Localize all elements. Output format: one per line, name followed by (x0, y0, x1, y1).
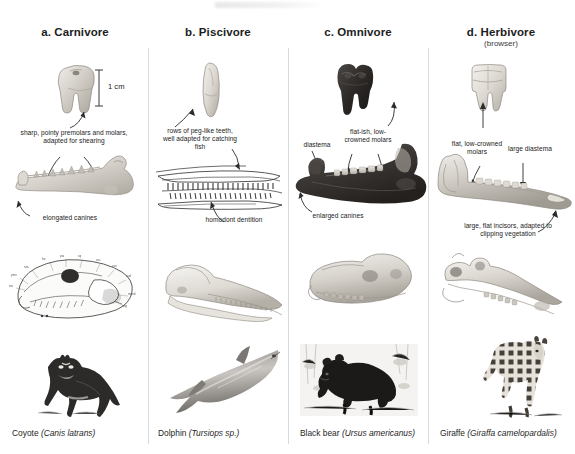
column-divider-1 (148, 48, 149, 444)
column-header-piscivore-label: b. Piscivore (185, 26, 251, 38)
svg-text:aud: aud (126, 274, 131, 278)
herbivore-tooth-arrow (474, 100, 492, 130)
incisor-annotation: large, flat incisors, adapted to clippin… (462, 222, 554, 238)
svg-text:occ: occ (96, 258, 101, 262)
caption-herbivore: Giraffe (Giraffa camelopardalis) (440, 428, 557, 438)
coyote-skull-illustration: nasfropar sqocccon audmandang pmxmx (8, 250, 140, 332)
piscivore-tooth-arrow (172, 105, 198, 129)
caption-carnivore: Coyote (Canis latrans) (12, 428, 95, 438)
column-divider-2 (288, 48, 289, 444)
scale-bar (94, 68, 106, 108)
black-bear-photo (300, 344, 418, 416)
giraffe-skull (434, 250, 564, 326)
svg-text:mx: mx (9, 284, 13, 288)
species-latin-carnivore: (Canis latrans) (41, 428, 95, 438)
giraffe-photo (480, 340, 566, 418)
enlarged-canines-arrow (294, 190, 318, 214)
premolar-molar-annotation: sharp, pointy premolars and molars, adap… (18, 129, 130, 145)
coyote-photo (28, 345, 124, 417)
caption-omnivore: Black bear (Ursus americanus) (300, 428, 415, 438)
svg-text:ang: ang (122, 304, 127, 308)
svg-text:mand: mand (128, 292, 136, 296)
column-header-carnivore: a. Carnivore (8, 26, 142, 38)
column-header-carnivore-label: a. Carnivore (41, 26, 109, 38)
species-common-herbivore: Giraffe (440, 428, 465, 438)
svg-text:par: par (60, 254, 64, 258)
column-header-omnivore: c. Omnivore (292, 26, 424, 38)
column-header-piscivore: b. Piscivore (152, 26, 284, 38)
omnivore-tooth (330, 62, 378, 120)
svg-text:pmx: pmx (11, 273, 17, 277)
canine-annotation: elongated canines (22, 214, 118, 222)
carnivore-tooth-arrow (66, 104, 92, 130)
svg-text:con: con (112, 264, 117, 268)
caption-piscivore: Dolphin (Tursiops sp.) (158, 428, 239, 438)
column-divider-3 (428, 48, 429, 444)
svg-text:fro: fro (42, 257, 46, 261)
species-common-carnivore: Coyote (12, 428, 39, 438)
species-common-piscivore: Dolphin (158, 428, 186, 438)
column-header-herbivore-label: d. Herbivore (467, 26, 535, 38)
svg-text:sq: sq (78, 254, 82, 258)
svg-text:nas: nas (24, 265, 29, 269)
column-header-herbivore: d. Herbivore (browser) (432, 26, 570, 48)
dolphin-photo (160, 344, 284, 414)
species-common-omnivore: Black bear (300, 428, 340, 438)
black-bear-skull (298, 252, 424, 324)
omnivore-tooth-arrow (374, 96, 400, 128)
column-header-omnivore-label: c. Omnivore (324, 26, 392, 38)
species-latin-herbivore: (Giraffa camelopardalis) (467, 428, 556, 438)
dentition-figure: a. Carnivore b. Piscivore c. Omnivore d.… (0, 0, 575, 454)
top-edge-artifact (215, 2, 325, 8)
species-latin-omnivore: (Ursus americanus) (342, 428, 415, 438)
species-latin-piscivore: (Tursiops sp.) (189, 428, 240, 438)
enlarged-canines-annotation: enlarged canines (300, 212, 376, 220)
dolphin-skull (158, 256, 284, 324)
giraffe-jaw (434, 150, 572, 214)
peg-teeth-annotation: rows of peg-like teeth, well adapted for… (162, 127, 238, 152)
scale-bar-label: 1 cm (108, 82, 124, 91)
homodont-annotation: homodont dentition (198, 216, 270, 224)
column-header-herbivore-subtitle: (browser) (432, 39, 570, 48)
piscivore-tooth (196, 60, 230, 118)
